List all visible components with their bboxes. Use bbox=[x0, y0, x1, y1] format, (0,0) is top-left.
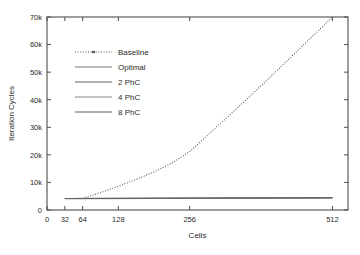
plot-canvas: 010k20k30k40k50k60k70k03264128256512 Cel… bbox=[0, 0, 360, 255]
y-tick-label: 30k bbox=[30, 123, 42, 132]
chart-figure: 010k20k30k40k50k60k70k03264128256512 Cel… bbox=[0, 0, 360, 255]
y-tick-label: 10k bbox=[30, 178, 42, 187]
y-tick-label: 50k bbox=[30, 68, 42, 77]
y-tick-label: 0 bbox=[38, 206, 42, 215]
x-tick-label: 32 bbox=[61, 215, 69, 224]
y-tick-label: 70k bbox=[30, 13, 42, 22]
chart-legend: BaselineOptimal2 PhC4 PhC8 PhC bbox=[75, 48, 149, 117]
x-tick-label: 256 bbox=[183, 215, 196, 224]
legend-label: 8 PhC bbox=[118, 108, 140, 117]
legend-label: Baseline bbox=[118, 48, 149, 57]
x-axis-title: Cells bbox=[189, 231, 207, 240]
y-tick-label: 60k bbox=[30, 40, 42, 49]
y-tick-label: 20k bbox=[30, 151, 42, 160]
axes bbox=[47, 17, 348, 210]
axis-titles: CellsIteration Cycles bbox=[7, 86, 206, 240]
data-series bbox=[65, 17, 333, 199]
x-tick-label: 64 bbox=[79, 215, 87, 224]
x-tick-label: 0 bbox=[45, 215, 49, 224]
legend-label: 2 PhC bbox=[118, 78, 140, 87]
legend-label: Optimal bbox=[118, 63, 146, 72]
x-tick-label: 128 bbox=[112, 215, 125, 224]
x-tick-label: 512 bbox=[326, 215, 339, 224]
y-axis-title: Iteration Cycles bbox=[7, 86, 16, 141]
y-tick-label: 40k bbox=[30, 96, 42, 105]
tick-labels: 010k20k30k40k50k60k70k03264128256512 bbox=[30, 13, 339, 224]
legend-label: 4 PhC bbox=[118, 93, 140, 102]
series-line bbox=[65, 198, 333, 199]
